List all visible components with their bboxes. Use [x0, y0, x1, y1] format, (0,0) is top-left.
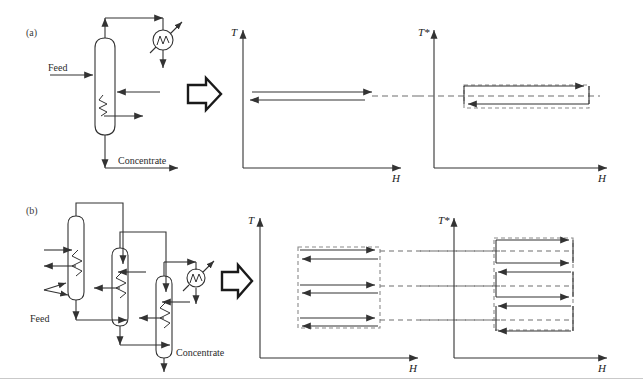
panel-a-th-ylabel: T [231, 26, 238, 38]
panel-a-tstar-ylabel: T* [418, 26, 430, 38]
panel-b-label: (b) [26, 205, 38, 217]
feed-label-b: Feed [30, 313, 49, 324]
concentrate-label-b: Concentrate [176, 347, 225, 358]
panel-b-th-xlabel: H [408, 362, 418, 374]
panel-a-th-xlabel: H [391, 172, 401, 184]
panel-b-tstar-ylabel: T* [438, 214, 450, 226]
panel-b-th-ylabel: T [248, 214, 255, 226]
panel-b-tstar-xlabel: H [597, 362, 607, 374]
figure-evaporator-th-diagrams: (a) Feed Concentrate T H [0, 0, 643, 390]
bottom-divider [0, 378, 643, 379]
concentrate-label: Concentrate [118, 155, 167, 166]
panel-a-label: (a) [26, 27, 37, 39]
feed-label: Feed [48, 62, 67, 73]
panel-a-tstar-xlabel: H [597, 172, 607, 184]
